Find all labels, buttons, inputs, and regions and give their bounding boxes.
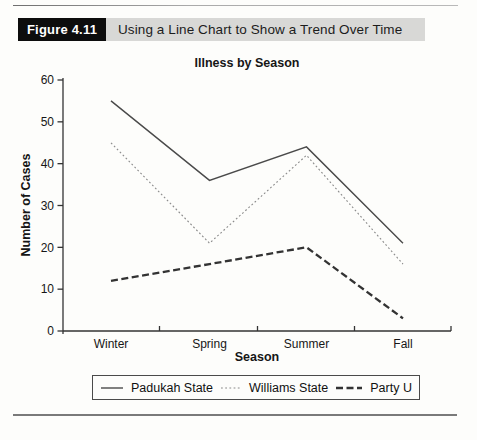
figure-title: Using a Line Chart to Show a Trend Over …: [106, 18, 425, 41]
y-tick-label: 10: [41, 282, 55, 296]
figure-header: Figure 4.11 Using a Line Chart to Show a…: [18, 18, 425, 41]
legend-item-padukah-state: Padukah State: [100, 381, 213, 395]
y-tick-label: 20: [41, 241, 55, 255]
top-divider: [13, 5, 458, 6]
dotted-line-icon: [220, 385, 242, 391]
solid-line-icon: [100, 385, 124, 391]
legend-label-williams-state: Williams State: [249, 381, 328, 395]
y-tick-label: 60: [41, 73, 55, 87]
x-axis-title: Season: [235, 350, 279, 364]
line-williams-state: [111, 143, 403, 264]
legend-item-party-u: Party U: [335, 381, 412, 395]
legend-item-williams-state: Williams State: [220, 381, 328, 395]
x-category-label: Fall: [393, 337, 412, 351]
legend-label-padukah-state: Padukah State: [131, 381, 213, 395]
x-category-label: Winter: [94, 337, 129, 351]
line-party-u: [111, 247, 403, 318]
line-chart: Illness by Season Number of Cases Season…: [0, 42, 477, 372]
figure-page: Figure 4.11 Using a Line Chart to Show a…: [0, 0, 477, 440]
line-padukah-state: [111, 101, 403, 243]
chart-title: Illness by Season: [195, 56, 300, 70]
chart-legend: Padukah State Williams State Party U: [92, 375, 420, 400]
bottom-divider: [13, 414, 457, 416]
axes: 0102030405060WinterSpringSummerFall: [41, 73, 451, 350]
dashed-line-icon: [335, 385, 363, 391]
y-tick-label: 30: [41, 199, 55, 213]
y-axis-title: Number of Cases: [19, 154, 33, 257]
data-series: [111, 101, 403, 319]
y-tick-label: 0: [47, 324, 54, 338]
y-tick-label: 50: [41, 115, 55, 129]
legend-label-party-u: Party U: [370, 381, 412, 395]
y-tick-label: 40: [41, 157, 55, 171]
x-category-label: Spring: [192, 337, 227, 351]
figure-number-label: Figure 4.11: [18, 18, 106, 41]
x-category-label: Summer: [284, 337, 329, 351]
